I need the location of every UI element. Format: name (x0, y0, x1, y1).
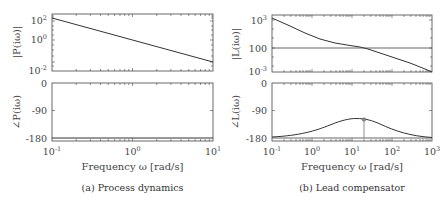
panel-b-mag-tick-1: 103 (251, 14, 267, 26)
svg-text:100: 100 (304, 145, 320, 157)
panel-b-xticks: 10-1 100 101 102 103 (263, 145, 440, 157)
panel-a-magnitude-line (52, 18, 213, 62)
panel-b-phase-curve (272, 119, 432, 138)
panel-a-mag-ylabel: |P(iω)| (11, 26, 23, 59)
panel-b-mag-tick-3: 10-3 (249, 65, 267, 77)
svg-text:102: 102 (384, 145, 400, 157)
bode-figure: 102 100 10-2 |P(iω)| (0, 0, 447, 204)
panel-b-phase-ylabel: ∠L(iω) (230, 95, 241, 129)
panel-a-magnitude-axes: 102 100 10-2 |P(iω)| (11, 14, 213, 76)
panel-b-phase-axes: 0 -90 -180 ∠L(iω) (230, 78, 432, 144)
panel-b-magnitude-line (272, 18, 432, 72)
panel-b-mag-tick-2: 100 (249, 43, 267, 54)
svg-text:101: 101 (205, 145, 221, 157)
panel-a-xticks: 10-1 100 101 (43, 145, 221, 157)
panel-b-magnitude-axes: 103 100 10-3 |L(iω)| (230, 14, 432, 77)
panel-a-mag-tick-3: 10-2 (29, 64, 47, 76)
panel-b-lead-compensator: 103 100 10-3 |L(iω)| 0 -90 -180 ∠L(iω) (230, 14, 440, 193)
panel-a-phase-axes: 0 -90 -180 ∠P(iω) (11, 78, 213, 144)
panel-a-phase-tick-90: -90 (32, 105, 47, 116)
panel-a-phase-tick-180: -180 (26, 133, 47, 144)
panel-b-mag-ylabel: |L(iω)| (230, 28, 242, 61)
svg-text:101: 101 (344, 145, 360, 157)
panel-b-phase-tick-180: -180 (246, 133, 267, 144)
panel-b-phase-tick-90: -90 (252, 105, 267, 116)
svg-text:10-1: 10-1 (43, 145, 61, 157)
panel-a-caption: (a) Process dynamics (82, 182, 184, 193)
panel-a-xlabel: Frequency ω [rad/s] (81, 161, 183, 172)
panel-b-phase-tick-0: 0 (261, 78, 267, 89)
panel-a-mag-tick-2: 100 (31, 33, 47, 45)
panel-b-xlabel: Frequency ω [rad/s] (301, 161, 403, 172)
panel-a-process-dynamics: 102 100 10-2 |P(iω)| (11, 14, 221, 193)
panel-b-phase-margin-marker (362, 118, 366, 122)
panel-b-caption: (b) Lead compensator (299, 182, 405, 193)
panel-a-mag-tick-1: 102 (31, 14, 47, 26)
svg-text:103: 103 (424, 145, 440, 157)
panel-a-phase-ylabel: ∠P(iω) (11, 95, 22, 129)
svg-text:100: 100 (124, 145, 140, 157)
panel-a-phase-tick-0: 0 (41, 78, 47, 89)
svg-text:10-1: 10-1 (263, 145, 281, 157)
